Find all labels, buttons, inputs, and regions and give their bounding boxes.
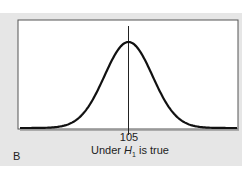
x-axis-caption: Under H1 is true: [60, 144, 200, 158]
x-tick-label: 105: [118, 131, 140, 143]
panel-label: B: [13, 150, 20, 162]
